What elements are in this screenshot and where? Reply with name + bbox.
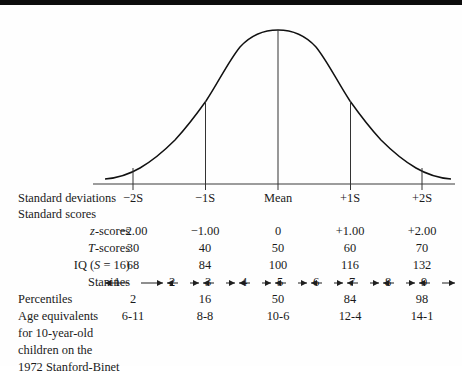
sd-cell-minus1sd: −1S <box>163 190 247 207</box>
normal-curve-chart <box>0 5 462 190</box>
row-t-scores: T-scores 30 40 50 60 70 <box>0 240 462 257</box>
z-cell-minus1sd: −1.00 <box>163 223 247 240</box>
age-cell-minus1sd: 8-8 <box>163 308 247 325</box>
row-age-note-line2: for 10-year-old <box>0 325 462 342</box>
z-cell-plus2sd: +2.00 <box>380 223 462 240</box>
stanine-5: 5 <box>268 274 292 291</box>
stanine-4: 4 <box>232 274 256 291</box>
stanine-1: 1 <box>93 274 141 291</box>
row-age-note-line4: 1972 Stanford-Binet <box>0 359 462 375</box>
row-z-scores: z-scores −2.00 −1.00 0 +1.00 +2.00 <box>0 223 462 240</box>
age-note-line4: 1972 Stanford-Binet <box>18 359 120 375</box>
percentiles-label: Percentiles <box>18 291 72 308</box>
stanine-2: 2 <box>160 274 184 291</box>
stanine-7: 7 <box>340 274 364 291</box>
row-stanines: Stanines <box>0 274 462 291</box>
row-iq-scores: IQ (S = 16) 68 84 100 116 132 <box>0 257 462 274</box>
sd-cell-plus2sd: +2S <box>380 190 462 207</box>
stanine-3: 3 <box>196 274 220 291</box>
row-age-note-line3: children on the <box>0 342 462 359</box>
stanines-arrow-strip: 1 2 3 4 5 6 7 8 9 <box>0 274 462 291</box>
standard-scores-label: Standard scores <box>18 206 96 223</box>
score-conversion-table: Standard deviations −2S −1S Mean +1S +2S… <box>0 185 462 371</box>
t-cell-plus2sd: 70 <box>380 240 462 257</box>
stanine-8: 8 <box>376 274 400 291</box>
row-standard-scores-header: Standard scores <box>0 206 462 223</box>
row-standard-deviations: Standard deviations −2S −1S Mean +1S +2S <box>0 190 462 207</box>
age-note-line3: children on the <box>18 342 92 359</box>
t-cell-minus1sd: 40 <box>163 240 247 257</box>
pct-cell-minus1sd: 16 <box>163 291 247 308</box>
iq-cell-minus1sd: 84 <box>163 257 247 274</box>
age-equivalents-label: Age equivalents <box>18 308 98 325</box>
age-note-line2: for 10-year-old <box>18 325 93 342</box>
iq-cell-plus2sd: 132 <box>380 257 462 274</box>
pct-cell-plus2sd: 98 <box>380 291 462 308</box>
bell-curve-svg <box>0 5 462 190</box>
row-percentiles: Percentiles 2 16 50 84 98 <box>0 291 462 308</box>
row-age-equivalents: Age equivalents 6-11 8-8 10-6 12-4 14-1 <box>0 308 462 325</box>
age-cell-plus2sd: 14-1 <box>380 308 462 325</box>
stanine-9: 9 <box>412 274 436 291</box>
stanine-6: 6 <box>304 274 328 291</box>
